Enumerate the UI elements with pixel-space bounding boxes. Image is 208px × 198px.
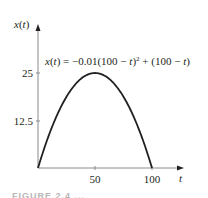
y-tick-label-12.5: 12.5 <box>14 115 34 127</box>
equation-label: x(t) = −0.01(100 − t)2 + (100 − t) <box>44 55 190 68</box>
figure-caption: FIGURE 2.4 ... <box>12 191 85 198</box>
y-tick-label-25: 25 <box>22 67 34 79</box>
x-tick-label-100: 100 <box>144 173 161 185</box>
x-axis-label: t <box>179 172 183 184</box>
y-axis-label: x(t) <box>13 18 30 31</box>
x-axis-arrow-icon <box>177 166 184 171</box>
y-axis-arrow-icon <box>36 24 41 31</box>
parabola-curve <box>38 73 152 168</box>
x-tick-label-50: 50 <box>90 173 102 185</box>
chart: x(t) t 25 12.5 50 100 x(t) = −0.01(100 −… <box>0 0 208 198</box>
